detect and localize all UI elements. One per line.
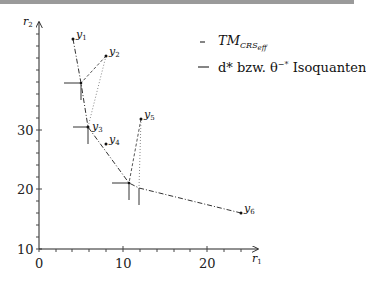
label-y5: y5	[143, 108, 155, 122]
isoquant-b	[73, 127, 88, 144]
x-tick-0: 0	[35, 256, 43, 271]
point-kink-a	[80, 82, 83, 85]
isoquants	[64, 83, 139, 205]
isoquant-c	[112, 183, 129, 200]
y-axis-label: r2	[23, 15, 33, 29]
legend-label-frontier: TM	[218, 33, 240, 48]
x-tick-10: 10	[115, 256, 132, 271]
label-y3: y3	[91, 120, 103, 134]
legend-item-frontier: TMCRSeff	[198, 30, 366, 54]
point-y1	[72, 38, 75, 41]
x-tick-20: 20	[199, 256, 216, 271]
legend-item-isoquant: d* bzw. θ−* Isoquanten	[198, 54, 366, 79]
label-y4: y4	[108, 133, 120, 147]
legend: TMCRSeff d* bzw. θ−* Isoquanten	[198, 30, 366, 79]
dash-dot-swatch-icon	[198, 37, 210, 47]
solid-line-swatch-icon	[198, 62, 210, 72]
point-y3	[87, 126, 90, 129]
label-y6: y6	[243, 202, 255, 216]
y-tick-30: 30	[17, 123, 34, 138]
point-y2	[105, 55, 108, 58]
y-tick-20: 20	[17, 182, 34, 197]
label-y2: y2	[108, 45, 120, 59]
point-y6	[240, 212, 243, 215]
point-y4	[105, 143, 108, 146]
x-axis-label: r1	[252, 252, 262, 266]
label-y1: y1	[75, 28, 87, 42]
radial-y2	[88, 56, 106, 127]
y-tick-10: 10	[17, 242, 34, 257]
projection-y2	[81, 56, 106, 83]
y-axis	[36, 22, 42, 249]
x-axis	[39, 246, 258, 252]
point-kink-c	[128, 182, 131, 185]
point-y5	[140, 118, 143, 121]
isoquant-a	[64, 83, 81, 100]
legend-label-isoquant: d* bzw. θ	[218, 60, 278, 75]
